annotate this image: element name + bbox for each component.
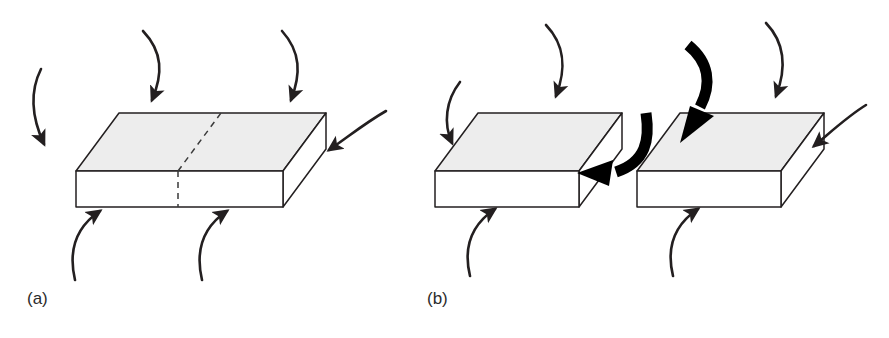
block-top-face [76, 113, 326, 171]
block-front-face [76, 171, 283, 207]
panel-b-label: (b) [427, 289, 448, 308]
figure-root: (a) [0, 0, 889, 338]
intact-block [76, 113, 326, 207]
panel-a-label: (a) [27, 289, 48, 308]
technical-diagram: (a) [0, 0, 889, 338]
right-block-front-face [637, 171, 781, 207]
left-block-front-face [435, 171, 579, 207]
